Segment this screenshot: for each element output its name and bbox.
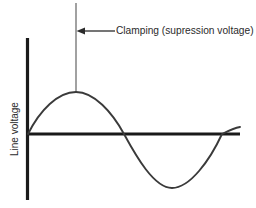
- y-axis-label: Line voltage: [9, 102, 20, 156]
- line-voltage-waveform: [28, 92, 240, 188]
- waveform-figure: Line voltage Clamping (supression voltag…: [0, 0, 256, 208]
- callout-arrowhead-icon: [77, 27, 86, 34]
- clamping-annotation-label: Clamping (supression voltage): [116, 25, 254, 37]
